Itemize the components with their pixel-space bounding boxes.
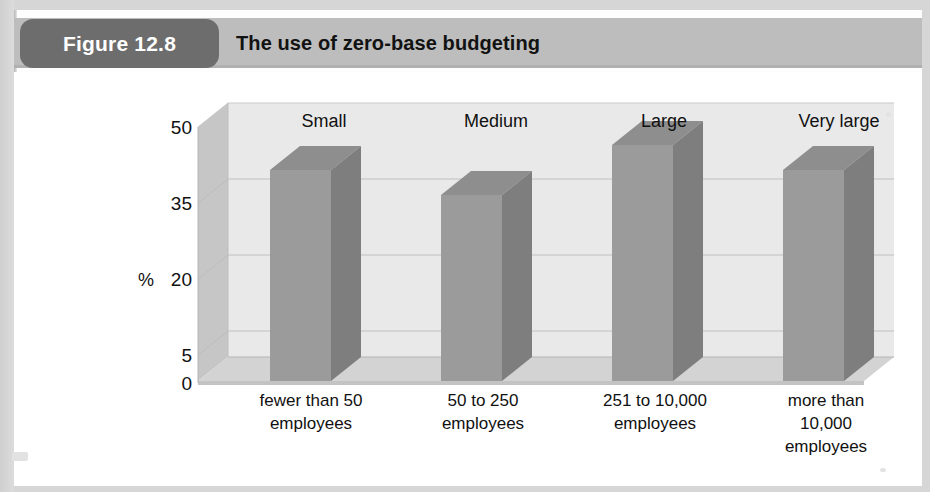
chart-area: 50 35 20 5 0 % Small Medium Large Very l… bbox=[14, 72, 922, 486]
bar-side-face bbox=[331, 146, 361, 381]
ytick-label-20: 20 bbox=[171, 269, 192, 290]
bar-front-face bbox=[441, 195, 502, 381]
xtick-label-0-line-1: employees bbox=[270, 414, 352, 433]
bar-front-face bbox=[783, 170, 844, 381]
plot-side-wall bbox=[198, 103, 228, 381]
bar-side-face bbox=[502, 171, 532, 381]
y-axis-title: % bbox=[138, 270, 154, 290]
bar-front-face bbox=[270, 170, 331, 381]
plot-floor-front-edge bbox=[198, 381, 864, 385]
category-label-small: Small bbox=[301, 111, 346, 131]
xtick-label-1-line-1: employees bbox=[442, 414, 524, 433]
xtick-label-2-line-1: employees bbox=[614, 414, 696, 433]
ytick-label-5: 5 bbox=[181, 345, 192, 366]
xtick-label-0-line-0: fewer than 50 bbox=[259, 391, 362, 410]
ytick-label-50: 50 bbox=[171, 117, 192, 138]
bar-side-face bbox=[844, 146, 874, 381]
xtick-label-1-line-0: 50 to 250 bbox=[448, 391, 519, 410]
figure-title: The use of zero-base budgeting bbox=[236, 19, 540, 68]
xtick-label-3-line-0: more than bbox=[788, 391, 865, 410]
bar-side-face bbox=[673, 121, 703, 381]
scan-speck bbox=[880, 468, 886, 472]
xtick-label-3-line-1: 10,000 bbox=[800, 414, 852, 433]
ytick-label-35: 35 bbox=[171, 193, 192, 214]
ytick-label-0: 0 bbox=[181, 373, 192, 394]
figure-number-badge: Figure 12.8 bbox=[20, 19, 219, 68]
xtick-label-3-line-2: employees bbox=[785, 437, 867, 456]
scan-speck bbox=[886, 112, 891, 117]
figure-number-label: Figure 12.8 bbox=[63, 32, 176, 56]
page-left-margin bbox=[0, 0, 14, 492]
bar-chart-3d: 50 35 20 5 0 % Small Medium Large Very l… bbox=[14, 72, 922, 486]
bar-front-face bbox=[612, 145, 673, 381]
figure-root: Figure 12.8 The use of zero-base budgeti… bbox=[0, 0, 930, 492]
category-label-large: Large bbox=[641, 111, 687, 131]
category-label-medium: Medium bbox=[464, 111, 528, 131]
category-label-very-large: Very large bbox=[798, 111, 879, 131]
scan-speck bbox=[12, 452, 28, 461]
xtick-label-2-line-0: 251 to 10,000 bbox=[603, 391, 707, 410]
